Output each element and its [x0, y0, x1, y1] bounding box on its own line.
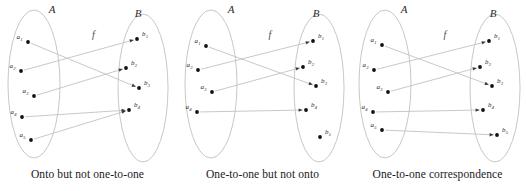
set-element-a4: a4	[361, 103, 374, 114]
element-label: b4	[488, 101, 495, 110]
mapping-arrow	[391, 67, 477, 91]
set-element-b1: b1	[487, 32, 500, 43]
set-element-a2: a2	[362, 61, 375, 72]
venn-mapping-diagram: ABfa1a2a3a4b1b2b3b4b5	[175, 0, 350, 168]
set-element-a3: a3	[200, 83, 213, 94]
element-label: b3	[497, 77, 504, 86]
diagram-panel-onto-not-one-to-one: ABfa1a2a3a4a5b1b2b3b4Onto but not one-to…	[0, 0, 175, 191]
set-element-a2: a2	[186, 61, 199, 72]
set-element-b3: b3	[490, 77, 504, 88]
function-label-f: f	[92, 29, 96, 40]
set-element-a2: a2	[9, 62, 22, 73]
set-element-b4: b4	[481, 101, 495, 112]
element-label: a5	[19, 131, 26, 140]
element-label: a4	[10, 108, 17, 117]
set-element-a5: a5	[370, 121, 383, 132]
panel-caption: One-to-one but not onto	[175, 168, 350, 180]
set-element-b3: b3	[314, 77, 328, 88]
mapping-arrow	[31, 43, 136, 87]
panel-caption: Onto but not one-to-one	[0, 168, 175, 180]
set-element-a5: a5	[19, 131, 32, 142]
set-element-b2: b2	[478, 58, 492, 69]
element-label: b5	[502, 126, 509, 135]
set-element-a1: a1	[16, 33, 29, 44]
mapping-arrow	[215, 67, 300, 91]
element-label: b2	[131, 59, 138, 68]
set-element-b3: b3	[137, 79, 151, 90]
set-a-label: A	[48, 3, 56, 15]
set-b-label: B	[490, 7, 497, 19]
diagram-panel-one-to-one-correspondence: ABfa1a2a3a4a5b1b2b3b4b5One-to-one corres…	[350, 0, 525, 191]
element-label: b2	[308, 58, 315, 67]
set-element-b4: b4	[127, 101, 141, 112]
element-label: a3	[200, 83, 207, 92]
set-a-label: A	[227, 3, 235, 15]
element-label: a5	[370, 121, 377, 130]
element-label: a1	[194, 37, 200, 46]
set-element-a1: a1	[194, 37, 207, 48]
element-label: b3	[144, 79, 151, 88]
set-element-a3: a3	[376, 83, 389, 94]
set-element-a4: a4	[185, 103, 198, 114]
function-label-f: f	[269, 29, 273, 40]
element-label: a4	[361, 103, 368, 112]
mapping-arrow	[385, 130, 493, 136]
set-element-b4: b4	[304, 101, 318, 112]
venn-mapping-diagram: ABfa1a2a3a4a5b1b2b3b4b5	[350, 0, 525, 168]
set-element-a1: a1	[370, 36, 383, 47]
set-a-ellipse	[185, 10, 237, 158]
element-label: a3	[22, 87, 29, 96]
function-label-f: f	[444, 29, 448, 40]
set-b-label: B	[135, 7, 142, 19]
element-label: a1	[370, 36, 376, 45]
element-label: b3	[321, 77, 328, 86]
element-label: b1	[494, 32, 500, 41]
element-label: a2	[186, 61, 193, 70]
mapping-arrow	[34, 111, 126, 140]
set-b-label: B	[313, 7, 320, 19]
set-a-label: A	[400, 3, 408, 15]
set-element-b2: b2	[301, 58, 315, 69]
mapping-arrow	[201, 41, 310, 69]
set-element-a4: a4	[10, 108, 23, 119]
set-element-a3: a3	[22, 87, 35, 98]
panel-caption: One-to-one correspondence	[350, 168, 525, 180]
mapping-arrow	[376, 108, 479, 112]
mapping-arrow	[377, 41, 486, 69]
set-a-ellipse	[359, 10, 411, 158]
element-label: a3	[376, 83, 383, 92]
element-label: b4	[311, 101, 318, 110]
set-element-b1: b1	[135, 30, 148, 41]
element-label: a2	[9, 62, 16, 71]
function-mapping-figure: ABfa1a2a3a4a5b1b2b3b4Onto but not one-to…	[0, 0, 526, 191]
element-label: b1	[142, 30, 148, 39]
mapping-arrow	[37, 69, 123, 96]
element-label: a4	[185, 103, 192, 112]
diagram-panel-one-to-one-not-onto: ABfa1a2a3a4b1b2b3b4b5One-to-one but not …	[175, 0, 350, 191]
mapping-arrow	[24, 39, 134, 70]
mapping-arrow	[200, 108, 302, 112]
venn-mapping-diagram: ABfa1a2a3a4a5b1b2b3b4	[0, 0, 175, 168]
element-label: a1	[16, 33, 22, 42]
element-label: b5	[325, 128, 332, 137]
set-element-b1: b1	[311, 32, 324, 43]
element-label: a2	[362, 61, 369, 70]
set-element-b5: b5	[495, 126, 509, 137]
element-label: b1	[318, 32, 324, 41]
set-element-b2: b2	[124, 59, 138, 70]
element-label: b2	[485, 58, 492, 67]
element-label: b4	[134, 101, 141, 110]
set-element-b5: b5	[318, 128, 332, 139]
